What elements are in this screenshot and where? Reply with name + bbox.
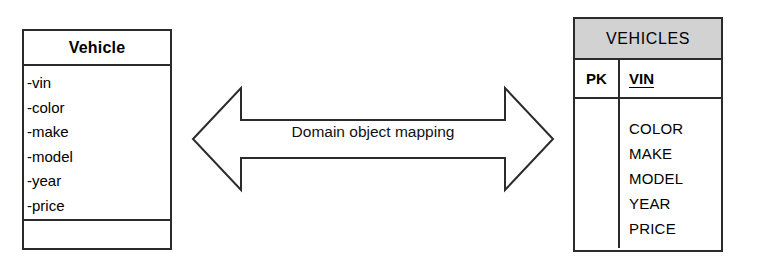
uml-class-title-compartment: Vehicle xyxy=(24,31,170,66)
db-column: YEAR xyxy=(629,191,721,216)
db-key-type-cell: PK xyxy=(575,60,620,97)
db-column: MODEL xyxy=(629,166,721,191)
db-key-type: PK xyxy=(586,70,607,87)
uml-class-box-vehicle: Vehicle -vin -color -make -model -year -… xyxy=(22,29,172,250)
uml-class-name: Vehicle xyxy=(69,39,126,57)
mapping-arrow-label: Domain object mapping xyxy=(190,123,556,141)
db-column: COLOR xyxy=(629,116,721,141)
db-key-column-cell: VIN xyxy=(620,60,721,97)
uml-attribute: -make xyxy=(27,120,170,145)
db-primary-key-row: PK VIN xyxy=(575,60,721,99)
db-column: MAKE xyxy=(629,141,721,166)
uml-attribute: -year xyxy=(27,169,170,194)
db-key-column: VIN xyxy=(629,70,654,87)
uml-class-attributes-compartment: -vin -color -make -model -year -price xyxy=(24,66,170,221)
uml-attribute: -vin xyxy=(27,71,170,96)
db-column: PRICE xyxy=(629,216,721,241)
uml-class-operations-compartment xyxy=(24,221,170,250)
db-body-key-column xyxy=(575,99,620,248)
db-table-header: VEHICLES xyxy=(575,19,721,60)
db-table-vehicles: VEHICLES PK VIN COLOR MAKE MODEL YEAR PR… xyxy=(573,17,723,252)
uml-attribute: -price xyxy=(27,194,170,219)
domain-object-mapping-diagram: Vehicle -vin -color -make -model -year -… xyxy=(0,0,760,269)
db-table-name: VEHICLES xyxy=(606,30,690,48)
uml-attribute: -color xyxy=(27,96,170,121)
uml-attribute: -model xyxy=(27,145,170,170)
db-body-field-column: COLOR MAKE MODEL YEAR PRICE xyxy=(620,99,721,248)
db-table-body: COLOR MAKE MODEL YEAR PRICE xyxy=(575,99,721,248)
